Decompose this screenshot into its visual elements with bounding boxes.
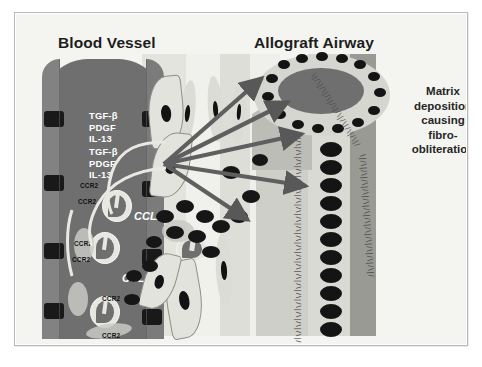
migration-arrow (164, 164, 306, 186)
figure-root: Blood Vessel Allograft Airway Matrix dep… (0, 0, 482, 367)
chemokine-gradient-line (90, 168, 166, 246)
chemokine-gradient-line (68, 210, 73, 276)
figure-canvas: Blood Vessel Allograft Airway Matrix dep… (16, 14, 466, 344)
chemokine-gradient-line (108, 142, 166, 214)
arrow-overlay (16, 14, 466, 344)
migration-arrow (164, 134, 302, 164)
